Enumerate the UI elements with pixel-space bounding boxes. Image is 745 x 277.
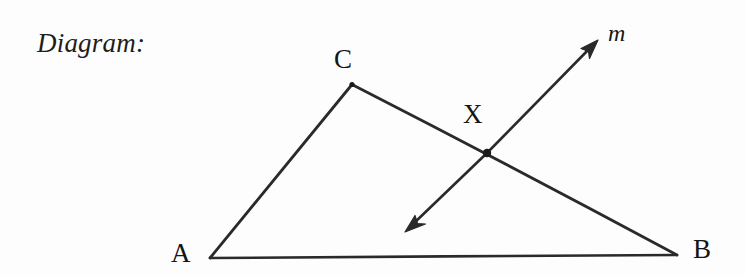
geometry-figure xyxy=(0,0,745,277)
segment-ab xyxy=(210,255,677,258)
vertex-c-dot xyxy=(349,82,354,87)
segment-ac xyxy=(210,85,352,259)
line-m-lower-arrowhead xyxy=(405,216,426,233)
segment-cb xyxy=(352,85,677,256)
diagram-page: Diagram: A B C X m xyxy=(0,0,745,277)
line-label-m: m xyxy=(608,21,625,45)
line-m-shaft xyxy=(412,47,591,225)
vertex-label-a: A xyxy=(171,240,191,267)
vertex-label-c: C xyxy=(334,46,352,73)
point-x-dot xyxy=(483,149,491,157)
vertex-label-b: B xyxy=(693,236,711,263)
point-label-x: X xyxy=(463,101,483,128)
